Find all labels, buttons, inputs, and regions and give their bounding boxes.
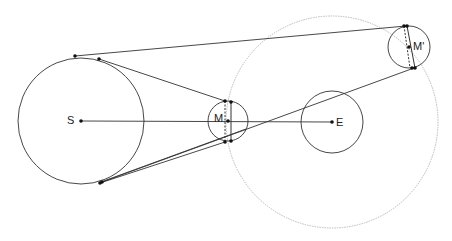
point-marker (223, 140, 227, 144)
point-marker (79, 119, 83, 123)
point-marker (405, 24, 409, 28)
label-sun: S (67, 115, 74, 126)
point-marker (229, 100, 233, 104)
point-marker (226, 119, 230, 123)
line-3 (100, 142, 225, 183)
point-marker (223, 99, 227, 103)
point-marker (100, 180, 104, 184)
point-marker (407, 45, 411, 49)
label-earth: E (336, 117, 343, 128)
label-moon: M (214, 113, 223, 124)
point-marker (73, 54, 77, 58)
line-1 (75, 26, 406, 56)
label-moon-prime: M' (413, 41, 424, 52)
line-2 (99, 59, 225, 101)
point-marker (97, 57, 101, 61)
point-marker (330, 120, 334, 124)
line-0 (81, 121, 332, 122)
point-marker (229, 139, 233, 143)
point-marker (413, 66, 417, 70)
line-5 (102, 68, 414, 182)
